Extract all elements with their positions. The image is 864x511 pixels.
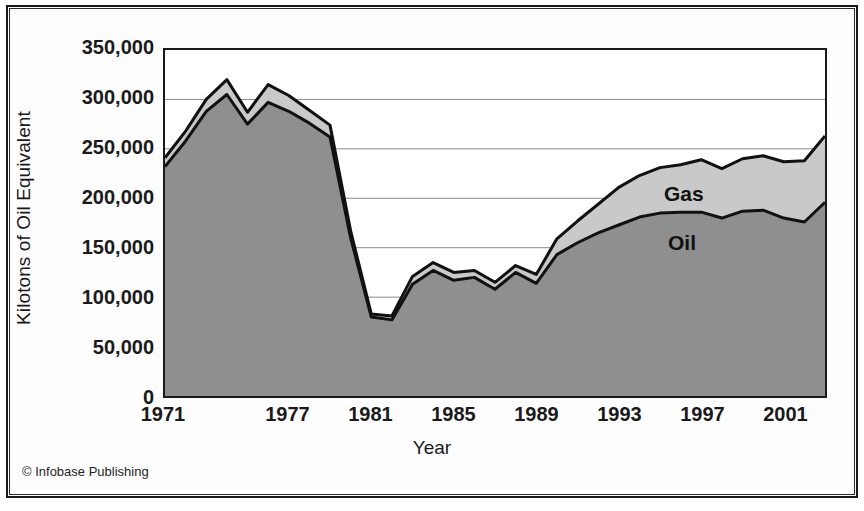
x-tick-label: 1977 [265, 403, 310, 426]
copyright-credit: © Infobase Publishing [22, 464, 149, 479]
area-oil [165, 94, 825, 396]
x-tick-label: 1993 [597, 403, 642, 426]
y-tick-label: 150,000 [44, 237, 154, 257]
x-tick-label: 2001 [763, 403, 808, 426]
y-tick-label: 250,000 [44, 137, 154, 157]
x-axis-tick-labels: 19711977198119851989199319972001 [0, 403, 864, 433]
y-tick-label: 50,000 [44, 337, 154, 357]
area-chart-svg [165, 50, 825, 396]
y-axis-tick-labels: 350,000300,000250,000200,000150,000100,0… [42, 0, 154, 511]
x-tick-label: 1971 [141, 403, 186, 426]
plot-area [163, 48, 827, 398]
y-tick-label: 350,000 [44, 37, 154, 57]
y-tick-label: 100,000 [44, 287, 154, 307]
x-tick-label: 1997 [680, 403, 725, 426]
y-tick-label: 200,000 [44, 187, 154, 207]
series-label-gas: Gas [664, 182, 704, 206]
y-axis-title: Kilotons of Oil Equivalent [13, 68, 35, 368]
series-areas [165, 80, 825, 396]
x-tick-label: 1985 [431, 403, 476, 426]
x-tick-label: 1981 [348, 403, 393, 426]
y-tick-label: 300,000 [44, 87, 154, 107]
series-label-oil: Oil [668, 231, 696, 255]
x-axis-title: Year [0, 437, 864, 459]
x-tick-label: 1989 [514, 403, 559, 426]
chart-figure: Kilotons of Oil Equivalent 350,000300,00… [0, 0, 864, 511]
